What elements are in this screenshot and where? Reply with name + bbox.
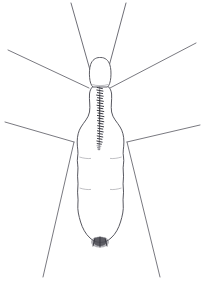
tail-patch-group	[91, 237, 109, 248]
head-outline	[89, 58, 111, 88]
insect-figure: Insect line drawing crane-fly dorsal	[0, 0, 202, 281]
head-group	[89, 58, 111, 88]
insect-drawing-canvas	[0, 0, 202, 281]
